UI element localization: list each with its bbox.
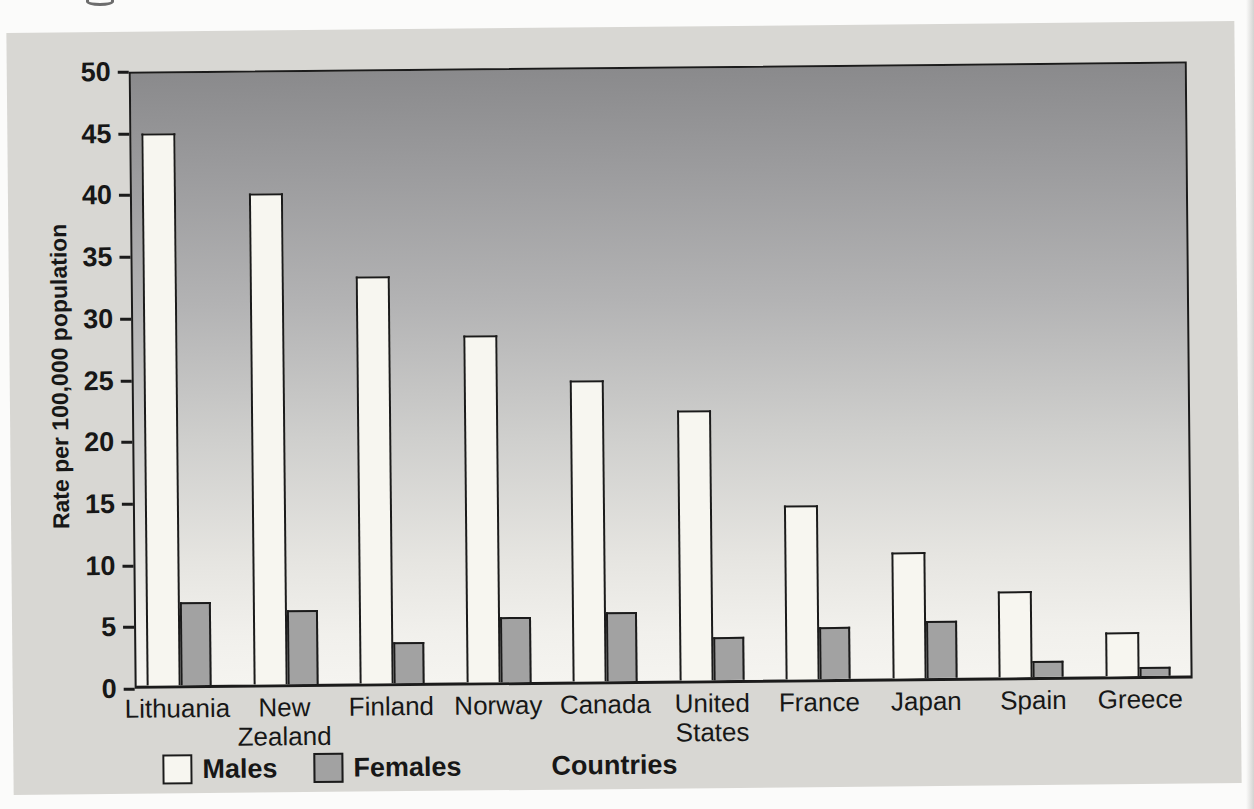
females-bar-spain <box>1033 661 1064 677</box>
y-tick-label-35: 35 <box>58 242 112 273</box>
y-tick-mark-50 <box>118 71 129 74</box>
males-bar-lithuania <box>141 133 180 685</box>
x-label-greece: Greece <box>1069 684 1211 714</box>
females-bar-canada <box>606 612 638 681</box>
x-label-cell: Norway <box>466 691 532 748</box>
legend-swatch-males <box>162 754 192 784</box>
y-tick-label-45: 45 <box>57 119 111 150</box>
x-label-cell: Lithuania <box>145 694 211 751</box>
bar-group-united-states <box>677 410 745 681</box>
males-bar-france <box>784 505 820 679</box>
x-axis-title: Countries <box>551 750 677 781</box>
bar-group-canada <box>570 380 638 682</box>
y-tick-label-40: 40 <box>58 180 112 211</box>
y-tick-label-25: 25 <box>60 365 114 396</box>
bar-group-greece <box>1105 632 1170 677</box>
females-bar-new-zealand <box>286 610 318 684</box>
y-tick-label-15: 15 <box>61 489 115 520</box>
x-label-cell: Finland <box>359 692 425 749</box>
legend-swatch-females <box>313 753 343 783</box>
males-bar-finland <box>356 276 394 683</box>
x-axis-labels: LithuaniaNew ZealandFinlandNorwayCanadaU… <box>135 685 1193 751</box>
y-tick-label-10: 10 <box>61 550 115 581</box>
y-axis <box>6 21 1234 33</box>
bar-group-lithuania <box>141 133 211 686</box>
legend-label-females: Females <box>353 752 461 783</box>
females-bar-norway <box>500 617 532 682</box>
y-tick-label-0: 0 <box>63 674 117 705</box>
males-bar-canada <box>570 380 607 681</box>
plot-area <box>129 62 1193 689</box>
scanned-page: Rate per 100,000 population LithuaniaNew… <box>0 0 1254 809</box>
males-bar-new-zealand <box>248 193 287 684</box>
y-tick-mark-15 <box>122 503 133 506</box>
y-tick-mark-45 <box>118 132 129 135</box>
cropped-caption-fragment <box>86 0 114 6</box>
males-bar-greece <box>1105 632 1139 676</box>
bar-group-japan <box>891 552 957 679</box>
bar-group-new-zealand <box>248 193 318 685</box>
y-tick-mark-20 <box>121 441 132 444</box>
females-bar-greece <box>1139 667 1170 676</box>
bars-container <box>131 64 1191 686</box>
females-bar-finland <box>393 642 424 683</box>
bar-group-spain <box>998 591 1064 678</box>
y-tick-mark-25 <box>121 379 132 382</box>
x-label-cell: New Zealand <box>252 693 318 750</box>
females-bar-united-states <box>713 637 744 680</box>
page-edge-shadow <box>1246 0 1254 809</box>
y-tick-mark-35 <box>120 256 131 259</box>
y-tick-label-30: 30 <box>59 304 113 335</box>
y-tick-label-20: 20 <box>60 427 114 458</box>
males-bar-norway <box>463 335 500 682</box>
females-bar-lithuania <box>180 602 212 685</box>
females-bar-france <box>819 627 850 679</box>
x-label-cell: United States <box>680 689 746 746</box>
bar-group-france <box>784 505 851 680</box>
figure-panel: Rate per 100,000 population LithuaniaNew… <box>6 21 1241 795</box>
y-tick-mark-30 <box>120 318 131 321</box>
y-tick-mark-0 <box>124 688 135 691</box>
y-tick-mark-5 <box>123 626 134 629</box>
x-label-cell: Canada <box>573 690 639 747</box>
x-label-cell: France <box>787 688 853 745</box>
bar-group-finland <box>356 276 425 684</box>
males-bar-united-states <box>677 410 714 680</box>
bar-group-norway <box>463 335 531 683</box>
y-tick-mark-40 <box>119 194 130 197</box>
males-bar-japan <box>891 552 926 678</box>
legend-label-males: Males <box>202 753 277 784</box>
females-bar-japan <box>926 621 958 678</box>
y-tick-mark-10 <box>122 564 133 567</box>
males-bar-spain <box>998 591 1033 677</box>
y-tick-label-50: 50 <box>57 57 111 88</box>
y-tick-label-5: 5 <box>62 612 116 643</box>
x-label-cell: Japan <box>894 687 960 744</box>
x-label-cell: Spain <box>1001 686 1067 743</box>
x-label-cell: Greece <box>1108 685 1174 742</box>
